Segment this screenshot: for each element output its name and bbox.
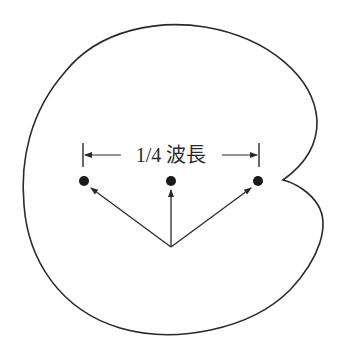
- element-dot-left: [79, 176, 89, 186]
- quarter-wavelength-dimension: 1/4 波長: [83, 143, 259, 167]
- element-dot-right: [253, 176, 263, 186]
- antenna-pattern-diagram: 1/4 波長: [0, 0, 345, 357]
- quarter-wavelength-label: 1/4 波長: [136, 144, 207, 166]
- element-dot-center: [166, 176, 176, 186]
- arrow-to-left: [91, 188, 171, 247]
- arrow-to-right: [171, 188, 251, 247]
